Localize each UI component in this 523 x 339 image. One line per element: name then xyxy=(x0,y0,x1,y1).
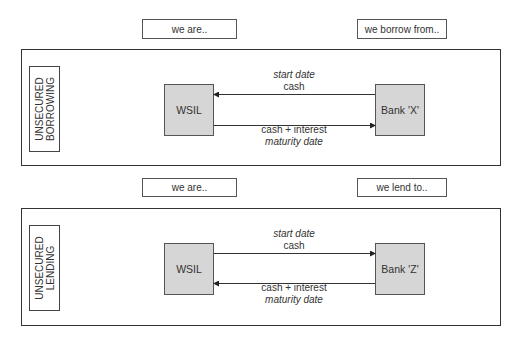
flow-arrows xyxy=(0,0,523,339)
